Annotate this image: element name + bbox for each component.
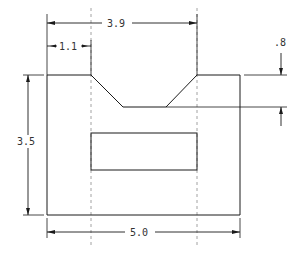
arrowhead-right-icon xyxy=(189,21,197,25)
outer-profile xyxy=(47,75,240,215)
dimension-label-1-1: 1.1 xyxy=(59,41,77,52)
dimension-1-1: 1.1 xyxy=(47,39,91,75)
arrowhead-down-icon xyxy=(279,68,283,75)
dimension-label-3-5: 3.5 xyxy=(17,136,35,147)
arrowhead-left-icon xyxy=(47,21,55,25)
arrowhead-left-icon xyxy=(47,230,55,234)
arrowhead-right-icon xyxy=(232,230,240,234)
dimension-3-5: 3.5 xyxy=(16,75,44,215)
arrowhead-right-icon xyxy=(82,45,88,48)
dimension-label-5-0: 5.0 xyxy=(130,227,148,238)
technical-drawing: 3.9 1.1 .8 3.5 5.0 xyxy=(0,0,303,255)
arrowhead-up-icon xyxy=(26,75,30,82)
rectangular-slot xyxy=(91,133,197,170)
dimension-label-3-9: 3.9 xyxy=(107,18,125,29)
arrowhead-up-icon xyxy=(279,107,283,114)
dimension-label-0-8: .8 xyxy=(274,37,286,48)
arrowhead-left-icon xyxy=(50,45,56,48)
arrowhead-down-icon xyxy=(26,208,30,215)
dimension-0-8: .8 xyxy=(166,37,287,126)
dimension-5-0: 5.0 xyxy=(47,218,240,238)
